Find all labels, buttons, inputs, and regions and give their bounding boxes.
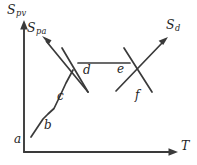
figure-container: Spv T Spa Sd a b c d e f [0,0,197,165]
ray-sd-label-sub: d [175,23,180,33]
point-label-e: e [117,63,124,75]
y-axis-label-sub: pv [16,8,26,18]
point-label-c: c [57,90,64,102]
point-label-f: f [135,89,140,101]
ray-sd-label-main: S [166,17,175,32]
x-axis-arrowhead [169,148,179,156]
y-axis-label: Spv [7,4,26,17]
ray-spa-arrowhead [42,36,52,45]
right-crossing-descending-line [124,48,152,92]
curve-abc [31,70,73,137]
point-label-b: b [44,119,52,131]
ray-spa-label-main: S [27,20,36,35]
ray-sd-label: Sd [166,19,180,32]
x-axis-label: T [181,140,190,153]
point-label-a: a [14,133,21,145]
ray-sd-arrowhead [159,37,168,45]
ray-spa-label-sub: pa [36,26,47,36]
ray-spa-line [47,42,89,93]
point-label-d: d [83,64,91,76]
y-axis-label-main: S [7,2,16,17]
ray-spa-label: Spa [27,22,46,35]
x-axis-label-main: T [181,138,190,153]
